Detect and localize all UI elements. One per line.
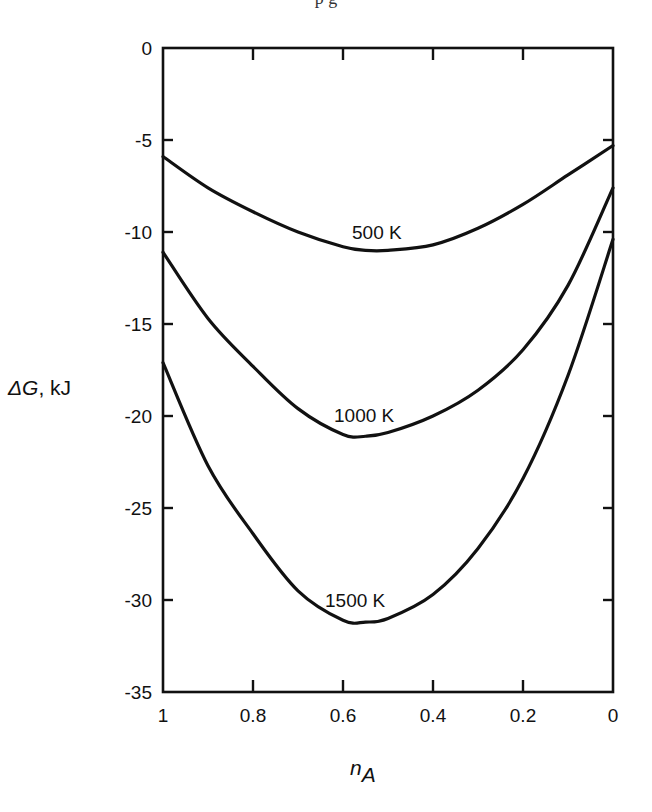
y-tick-label: -25 (125, 498, 152, 519)
y-tick-label: -10 (125, 222, 152, 243)
x-axis-label: nA (350, 756, 376, 786)
x-axis-label-sub: A (360, 763, 376, 786)
y-tick-label: -35 (125, 682, 152, 703)
y-axis-label: ΔG, kJ (7, 376, 71, 399)
x-tick-label: 1 (158, 705, 169, 726)
y-axis-label-unit: , kJ (38, 376, 71, 399)
plot-border (163, 48, 613, 692)
series-labels: 500 K1000 K1500 K (325, 222, 402, 611)
series-label: 1500 K (325, 590, 386, 611)
x-tick-label: 0.4 (420, 705, 447, 726)
x-tick-label: 0.8 (240, 705, 266, 726)
plot-frame (163, 48, 613, 692)
x-tick-label: 0 (608, 705, 619, 726)
y-tick-label: -5 (135, 130, 152, 151)
y-tick-label: -20 (125, 406, 152, 427)
y-tick-label: -15 (125, 314, 152, 335)
x-axis-label-main: n (350, 756, 362, 779)
data-series (163, 146, 613, 624)
x-tick-label: 0.2 (510, 705, 536, 726)
y-tick-label: -30 (125, 590, 152, 611)
x-axis-ticks: 10.80.60.40.20 (158, 48, 619, 726)
series-label: 1000 K (334, 405, 395, 426)
x-tick-label: 0.6 (330, 705, 356, 726)
series-label: 500 K (352, 222, 402, 243)
chart: 0-5-10-15-20-25-30-35 10.80.60.40.20 500… (0, 0, 652, 812)
y-tick-label: 0 (141, 38, 152, 59)
y-axis-label-symbol: ΔG (7, 376, 38, 399)
